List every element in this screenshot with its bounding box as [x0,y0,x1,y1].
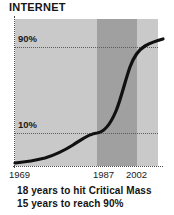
adoption-s-curve [15,19,163,166]
caption-critical-mass: 18 years to hit Critical Mass [17,186,152,196]
chart-title: INTERNET [9,1,66,13]
x-tick-label-critical-mass-year: 1987 [93,170,114,180]
y-tick-label-ten: 10% [18,120,37,130]
x-tick-label-ninety-percent-year: 2002 [126,170,147,180]
internet-adoption-figure: INTERNET 90% 10% 1969 1987 2002 18 years… [0,0,174,215]
x-axis-line [13,166,163,167]
y-tick-label-ninety: 90% [18,34,37,44]
caption-ninety-percent: 15 years to reach 90% [17,199,124,209]
x-tick-label-start-year: 1969 [9,170,30,180]
plot-area: 90% 10% [15,19,158,166]
